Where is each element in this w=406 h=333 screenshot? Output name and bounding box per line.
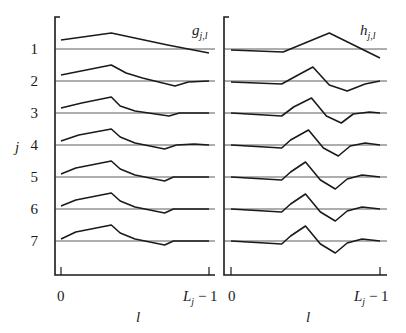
right-x-axis-label: l bbox=[306, 310, 310, 325]
row-label-1: 1 bbox=[24, 42, 38, 57]
right-series-4 bbox=[231, 130, 380, 156]
left-series-6 bbox=[61, 193, 209, 213]
row-label-4: 4 bbox=[24, 138, 38, 153]
right-series-5 bbox=[231, 162, 380, 189]
left-series-5 bbox=[61, 161, 209, 181]
right-x-tick-0: 0 bbox=[228, 289, 236, 304]
row-label-2: 2 bbox=[24, 74, 38, 89]
right-panel-h bbox=[224, 17, 387, 275]
right-series-2 bbox=[231, 67, 380, 91]
left-series-7 bbox=[61, 225, 209, 245]
right-panel-title: hj,l bbox=[360, 23, 376, 41]
right-series-6 bbox=[231, 194, 380, 221]
row-label-3: 3 bbox=[24, 106, 38, 121]
right-series-3 bbox=[231, 98, 380, 123]
left-x-tick-0: 0 bbox=[57, 289, 65, 304]
right-series-7 bbox=[231, 226, 380, 253]
row-label-6: 6 bbox=[24, 202, 38, 217]
left-series-1 bbox=[61, 33, 209, 53]
left-series-2 bbox=[61, 65, 209, 86]
wavelet-filter-figure bbox=[0, 0, 406, 333]
left-x-tick-end: Lj − 1 bbox=[183, 289, 218, 307]
left-panel-title: gj,l bbox=[192, 23, 208, 41]
right-series-1 bbox=[231, 33, 380, 58]
left-panel-g bbox=[55, 17, 215, 275]
left-x-axis-label: l bbox=[136, 310, 140, 325]
y-axis-label: j bbox=[15, 140, 19, 155]
row-label-5: 5 bbox=[24, 170, 38, 185]
left-series-4 bbox=[61, 129, 209, 149]
right-x-tick-end: Lj − 1 bbox=[354, 289, 389, 307]
left-axes bbox=[55, 17, 215, 275]
row-label-7: 7 bbox=[24, 234, 38, 249]
